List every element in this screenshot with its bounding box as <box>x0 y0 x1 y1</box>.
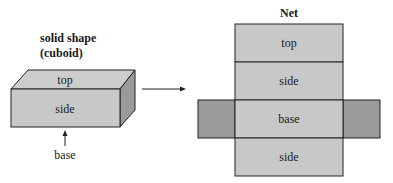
transform-arrowhead <box>180 87 186 92</box>
solid-title-line1: solid shape <box>40 31 97 45</box>
cuboid: top side <box>11 70 135 127</box>
base-pointer-arrowhead <box>63 130 68 136</box>
solid-title-line2: (cuboid) <box>40 46 83 60</box>
cuboid-side-label: side <box>55 102 74 116</box>
net: top side base side <box>198 24 380 176</box>
net-right-flap <box>343 100 380 138</box>
cuboid-top-face <box>11 70 135 89</box>
net-left-flap <box>198 100 235 138</box>
net-label-top: top <box>281 36 296 50</box>
net-label-side-1: side <box>279 74 298 88</box>
cuboid-top-label: top <box>57 73 72 87</box>
cuboid-net-diagram: solid shape (cuboid) top side base Net t… <box>0 0 393 183</box>
net-title: Net <box>280 6 298 20</box>
net-label-side-2: side <box>279 150 298 164</box>
net-label-base: base <box>278 112 299 126</box>
base-label: base <box>54 148 75 162</box>
